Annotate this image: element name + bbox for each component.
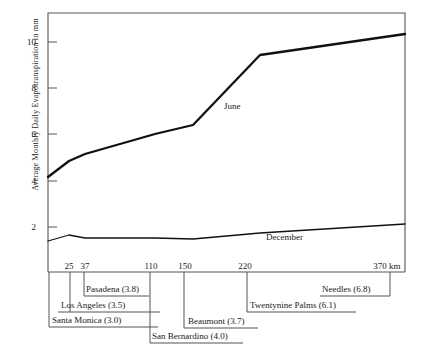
series-june bbox=[48, 34, 405, 177]
chart-vector-layer bbox=[0, 0, 423, 354]
plot-frame bbox=[48, 13, 405, 272]
series-december bbox=[48, 224, 405, 241]
y-axis-ticks bbox=[48, 42, 57, 227]
callout-leaders bbox=[49, 272, 390, 343]
evapotranspiration-chart: Average Monthly Daily Evapotranspiration… bbox=[0, 0, 423, 354]
